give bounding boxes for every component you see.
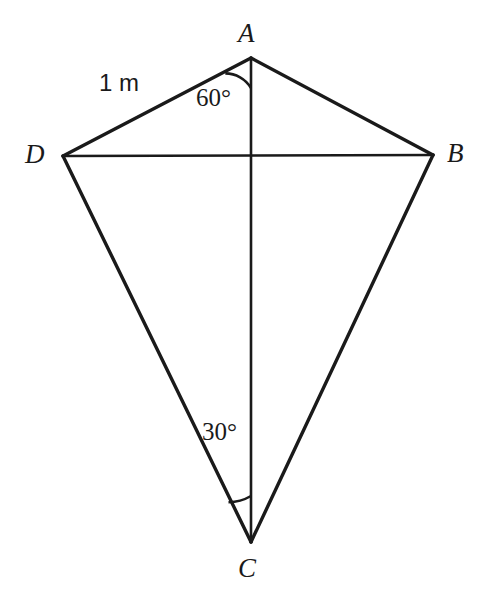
edge-bc-line [251, 155, 433, 542]
kite-diagram-canvas [0, 0, 485, 604]
angle-label-30-degrees: 30° [202, 419, 237, 444]
vertex-label-c: C [238, 555, 256, 582]
geometry-figure: A B C D 60° 30° 1 m [0, 0, 485, 604]
vertex-label-b: B [447, 140, 464, 167]
diagonal-db-line [63, 155, 433, 156]
vertex-label-d: D [25, 141, 45, 168]
vertex-label-a: A [238, 20, 255, 47]
edge-ab-line [251, 58, 433, 155]
edge-dc-line [63, 156, 251, 542]
side-length-label-ad: 1 m [99, 71, 139, 95]
angle-label-60-degrees: 60° [196, 85, 231, 110]
